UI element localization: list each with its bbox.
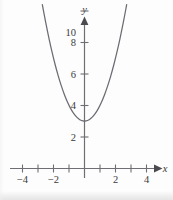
x-axis-label: x <box>162 163 168 174</box>
y-axis-arrowhead <box>81 17 89 26</box>
x-tick-label--2: −2 <box>48 174 59 185</box>
parabola-plot: x y −4 −2 2 4 <box>0 0 173 200</box>
y-axis-label: y <box>81 4 87 15</box>
x-axis-arrowhead <box>154 165 163 173</box>
x-axis: x <box>10 163 168 174</box>
x-axis-tick-labels: −4 −2 2 4 <box>17 174 150 185</box>
y-axis: y <box>81 4 89 178</box>
x-tick-label-4: 4 <box>144 174 150 185</box>
y-tick-label-6: 6 <box>71 69 76 80</box>
y-tick-label-8: 8 <box>71 37 76 48</box>
y-tick-label-10: 10 <box>66 27 77 38</box>
x-tick-label--4: −4 <box>17 174 29 185</box>
x-tick-label-2: 2 <box>113 174 118 185</box>
graph-figure: x y −4 −2 2 4 <box>0 0 173 200</box>
y-tick-label-2: 2 <box>71 132 76 143</box>
y-axis-tick-labels: 2 4 6 8 10 <box>66 27 77 143</box>
